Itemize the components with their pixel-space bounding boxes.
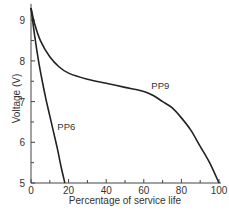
series-label-pp6: PP6 (57, 121, 75, 132)
y-tick-label: 6 (19, 137, 25, 148)
chart-area: 02040608010056789PP9PP6 Voltage (V) Perc… (0, 0, 229, 211)
y-axis-label: Voltage (V) (11, 69, 22, 129)
plot-svg: 02040608010056789PP9PP6 (0, 0, 229, 211)
series-label-pp9: PP9 (151, 80, 169, 91)
y-tick-label: 5 (19, 178, 25, 189)
series-line-pp6 (31, 8, 65, 183)
y-tick-label: 9 (19, 15, 25, 26)
y-tick-label: 8 (19, 56, 25, 67)
x-axis-label: Percentage of service life (30, 195, 220, 206)
